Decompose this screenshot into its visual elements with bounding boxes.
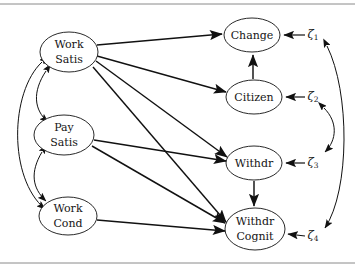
node-label-work-satis-line2: Satis (55, 53, 83, 66)
path-work-satis-to-withdr (96, 61, 227, 157)
arrow-zeta4-to-withdr-cognit (288, 234, 305, 236)
arc-zeta2-zeta3 (324, 108, 334, 152)
path-work-cond-to-withdr-cognit (97, 220, 225, 231)
node-label-work-satis-line1: Work (54, 38, 83, 51)
arc-work-satis-pay-satis (36, 71, 48, 122)
node-label-pay-satis-line1: Pay (54, 121, 74, 134)
node-change[interactable]: Change (224, 18, 280, 52)
node-label-change: Change (231, 29, 274, 42)
disturbance-labels-group: ζ1 ζ2 ζ3 ζ4 (307, 27, 318, 243)
node-citizen[interactable]: Citizen (226, 80, 282, 114)
disturbance-label-zeta1: ζ1 (307, 27, 318, 42)
node-work-cond[interactable]: Work Cond (39, 197, 97, 235)
diagram-canvas: Work Satis Pay Satis Work Cond Change Ci… (0, 0, 355, 270)
zeta3-subscript: 3 (314, 161, 319, 170)
node-withdr-cognit[interactable]: Withdr Cognit (225, 208, 285, 250)
node-pay-satis[interactable]: Pay Satis (34, 115, 94, 155)
zeta1-subscript: 1 (314, 33, 319, 42)
node-label-pay-satis-line2: Satis (50, 136, 78, 149)
path-work-satis-to-citizen (97, 56, 226, 92)
node-work-satis[interactable]: Work Satis (40, 32, 98, 72)
node-withdr[interactable]: Withdr (226, 146, 282, 180)
path-work-satis-to-change (97, 34, 222, 45)
path-work-satis-to-withdr-cognit (93, 67, 226, 222)
node-label-withdr-cognit-line1: Withdr (236, 215, 275, 228)
node-label-citizen: Citizen (234, 91, 273, 104)
path-diagram-figure: Work Satis Pay Satis Work Cond Change Ci… (0, 0, 355, 270)
zeta2-subscript: 2 (314, 95, 319, 104)
directed-paths-group (92, 34, 254, 231)
disturbance-label-zeta3: ζ3 (307, 155, 318, 170)
zeta4-subscript: 4 (314, 234, 319, 243)
node-label-withdr-cognit-line2: Cognit (236, 230, 274, 243)
arc-pay-satis-work-cond (34, 152, 46, 201)
node-label-work-cond-line1: Work (53, 202, 82, 215)
arc-zeta1-zeta4 (325, 46, 344, 228)
disturbance-arrows-group (284, 35, 305, 236)
node-label-work-cond-line2: Cond (53, 217, 82, 230)
node-label-withdr: Withdr (235, 157, 274, 170)
disturbance-label-zeta4: ζ4 (307, 228, 318, 243)
disturbance-label-zeta2: ζ2 (307, 89, 318, 104)
